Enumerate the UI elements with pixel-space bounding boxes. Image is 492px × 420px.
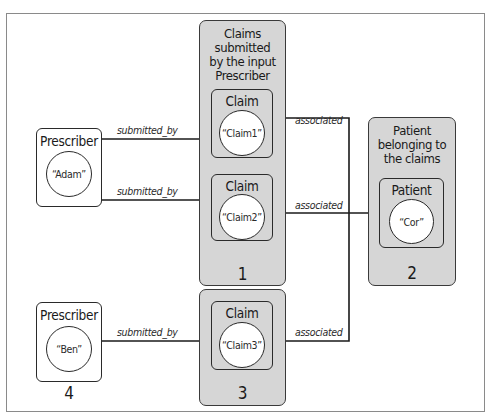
node-value-circle: “Claim2” xyxy=(219,194,265,240)
group-title-line: Patient xyxy=(369,124,455,138)
group-number-1: 1 xyxy=(200,265,285,283)
claim-node-claim3[interactable]: Claim “Claim3” xyxy=(211,301,273,370)
claim-node-claim2[interactable]: Claim “Claim2” xyxy=(211,174,273,241)
edge-label-submitted-by-3: submitted_by xyxy=(117,326,178,338)
group-title-line: belonging to xyxy=(369,138,455,152)
edge-label-associated-2: associated xyxy=(295,199,343,211)
edge-label-associated-3: associated xyxy=(295,326,343,338)
node-value-circle: “Claim3” xyxy=(219,322,265,368)
prescriber-node-adam[interactable]: Prescriber “Adam” xyxy=(36,128,102,207)
node-value-circle: “Adam” xyxy=(46,151,92,197)
group-title-line: Claims xyxy=(200,27,285,41)
node-type-label: Claim xyxy=(212,94,272,108)
group-title-line: the claims xyxy=(369,152,455,166)
group-number-2: 2 xyxy=(369,264,455,282)
edge-label-submitted-by-2: submitted_by xyxy=(117,185,178,197)
node-value-circle: “Claim1” xyxy=(219,110,265,156)
group-number-3: 3 xyxy=(200,384,285,402)
prescriber-node-ben[interactable]: Prescriber “Ben” xyxy=(36,302,102,382)
edge-label-associated-1: associated xyxy=(295,114,343,126)
edge-label-submitted-by-1: submitted_by xyxy=(117,124,178,136)
node-type-label: Claim xyxy=(212,179,272,193)
group-title-line: by the input xyxy=(200,55,285,69)
group-title-line: Prescriber xyxy=(200,69,285,83)
node-type-label: Prescriber xyxy=(37,134,101,148)
node-type-label: Patient xyxy=(380,183,443,197)
claim-node-claim1[interactable]: Claim “Claim1” xyxy=(211,89,273,158)
group-title-line: submitted xyxy=(200,41,285,55)
group-number-4: 4 xyxy=(36,384,102,402)
node-type-label: Claim xyxy=(212,306,272,320)
node-type-label: Prescriber xyxy=(37,308,101,322)
node-value-circle: “Ben” xyxy=(46,326,92,372)
node-value-circle: “Cor” xyxy=(389,199,434,244)
patient-node-cor[interactable]: Patient “Cor” xyxy=(379,178,444,248)
